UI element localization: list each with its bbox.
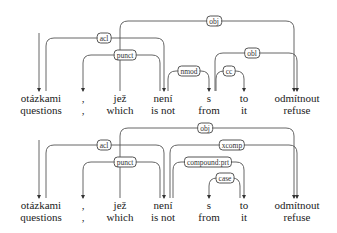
token-english: it	[241, 105, 247, 116]
token-english: refuse	[284, 105, 311, 116]
token-english: is not	[151, 212, 175, 223]
token-czech: s	[207, 93, 211, 104]
token-english: refuse	[284, 212, 311, 223]
arc-label: acl	[97, 33, 112, 44]
token-czech: s	[207, 200, 211, 211]
token-czech: otázkami	[21, 200, 61, 211]
token-english: ,	[82, 212, 85, 223]
arc-label: nmod	[177, 66, 200, 77]
arc-label: obj	[206, 16, 222, 27]
token-czech: to	[240, 200, 249, 211]
token-english: ,	[82, 105, 85, 116]
arc-label: obj	[197, 123, 213, 134]
token-english: which	[107, 105, 134, 116]
token-czech: jež	[114, 93, 127, 104]
arc-label: cc	[223, 66, 236, 77]
token-english: from	[198, 212, 219, 223]
token-english: questions	[20, 105, 62, 116]
arc-xcomp	[170, 145, 297, 198]
arc-label: xcomp	[219, 140, 245, 151]
token-czech: jež	[114, 200, 127, 211]
arc-label: acl	[97, 140, 112, 151]
arc-label: punct	[114, 157, 137, 168]
arc-label: punct	[114, 50, 137, 61]
arc-obj	[120, 21, 294, 91]
token-czech: odmítnout	[274, 200, 319, 211]
token-english: which	[107, 212, 134, 223]
token-czech: ,	[82, 93, 85, 104]
token-czech: to	[240, 93, 249, 104]
token-czech: odmítnout	[274, 93, 319, 104]
token-english: is not	[151, 105, 175, 116]
arc-acl	[46, 145, 164, 198]
arc-label: compound:prt	[184, 157, 232, 168]
token-czech: není	[154, 93, 173, 104]
token-czech: ,	[82, 200, 85, 211]
arc-acl	[46, 38, 164, 91]
token-czech: není	[154, 200, 173, 211]
token-english: from	[198, 105, 219, 116]
token-czech: otázkami	[21, 93, 61, 104]
arc-label: case	[216, 173, 235, 184]
token-english: it	[241, 212, 247, 223]
arc-label: obl	[244, 48, 260, 59]
token-english: questions	[20, 212, 62, 223]
